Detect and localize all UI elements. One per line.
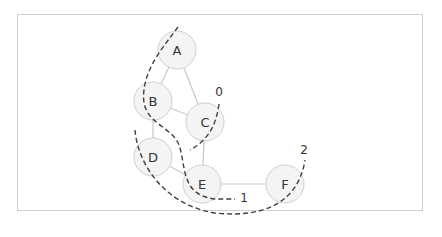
node-d: D [134,138,172,176]
cut-1-label: 1 [240,191,248,205]
graph-canvas: ABCDEF 012 [0,0,442,237]
node-label: D [148,150,158,165]
node-label: A [173,43,182,58]
node-f: F [266,165,304,203]
node-b: B [134,82,172,120]
node-label: C [200,115,209,130]
cut-2-label: 2 [300,143,308,157]
node-label: E [198,177,206,192]
node-a: A [158,31,196,69]
node-label: B [149,94,158,109]
cut-0-label: 0 [215,85,223,99]
node-e: E [183,165,221,203]
nodes-layer: ABCDEF [134,31,304,203]
node-label: F [281,177,288,192]
